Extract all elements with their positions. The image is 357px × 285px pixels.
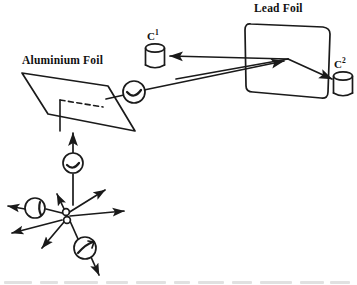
ray-right [70, 211, 124, 216]
aluminium-foil [22, 73, 135, 131]
ray-marker-left [25, 198, 45, 218]
counter-c1 [146, 44, 165, 68]
counter-c1-label-superscript: 1 [155, 28, 159, 37]
beam-lead-foil-to-counter-c2 [288, 59, 332, 79]
counter-c2-label-superscript: 2 [342, 56, 346, 65]
ray-down-right-seg [70, 221, 78, 239]
beam-lead-foil-to-counter-c1 [170, 56, 288, 59]
diagram-canvas [0, 0, 357, 285]
counter-c1-label-base: C [147, 30, 155, 42]
counter-c2-label: C2 [334, 58, 346, 70]
counter-c2 [334, 72, 353, 96]
ray-left-upper-seg [46, 209, 62, 213]
beam-marker-source-to-foil [63, 153, 83, 173]
ray-marker-lower-right [74, 237, 96, 259]
ray-left-upper [8, 206, 25, 209]
beam-marker-foil-to-lead [123, 81, 145, 103]
ray-down-right [91, 257, 99, 275]
lead-foil-label: Lead Foil [254, 2, 303, 14]
lead-foil [245, 24, 330, 98]
counter-c2-label-base: C [334, 58, 342, 70]
scattering-experiment-figure: Aluminium Foil Lead Foil C1 C2 [0, 0, 357, 285]
emission-rays [8, 190, 124, 275]
ray-down-left [42, 222, 64, 248]
ray-left-lower [12, 220, 62, 233]
counter-c1-label: C1 [147, 30, 159, 42]
aluminium-foil-label: Aluminium Foil [22, 54, 103, 66]
